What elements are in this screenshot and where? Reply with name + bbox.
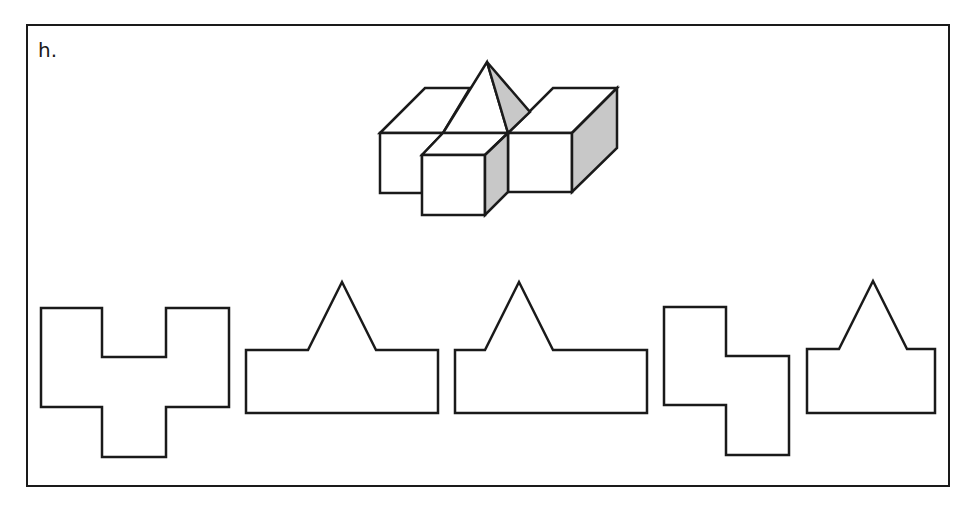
view-5-house-shape xyxy=(807,281,935,413)
right-block-front xyxy=(508,133,572,192)
projection-views xyxy=(41,281,935,457)
view-3-house-shape xyxy=(455,282,647,413)
view-1-cross-shape xyxy=(41,308,229,457)
view-2-house-shape xyxy=(246,282,438,413)
isometric-solid xyxy=(380,62,617,215)
diagram-canvas xyxy=(0,0,972,506)
front-cube-front xyxy=(422,155,485,215)
view-4-step-shape xyxy=(664,307,789,455)
